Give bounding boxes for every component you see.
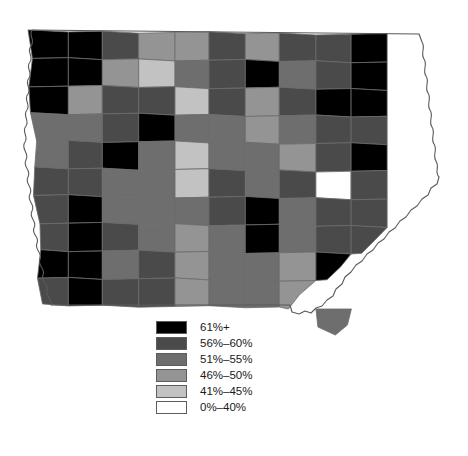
county-5-1 [35, 140, 69, 169]
county-4-3 [102, 113, 138, 142]
county-6-2 [68, 168, 102, 197]
legend-swatch [156, 337, 187, 350]
county-6-3 [102, 168, 138, 197]
county-2-10 [351, 62, 387, 90]
legend-row: 46%–50% [156, 367, 316, 383]
county-1-8 [279, 33, 316, 62]
county-3-9 [316, 89, 351, 118]
county-1-7 [245, 33, 279, 62]
county-10-5 [175, 278, 209, 307]
county-5-7 [245, 142, 279, 171]
county-1-4 [139, 32, 175, 61]
county-4-9 [316, 115, 351, 144]
county-8-10 [351, 226, 387, 255]
county-4-7 [245, 116, 279, 145]
county-2-6 [209, 59, 245, 88]
county-2-5 [175, 60, 209, 89]
county-1-9 [316, 34, 351, 63]
county-8-4 [139, 224, 175, 253]
county-7-1 [33, 195, 68, 224]
legend-label: 56%–60% [200, 337, 252, 350]
county-10-6 [209, 279, 245, 308]
county-9-2 [68, 251, 102, 280]
county-1-5 [175, 32, 209, 61]
county-7-6 [209, 196, 245, 225]
county-7-5 [175, 197, 209, 226]
county-10-4 [139, 278, 175, 307]
legend-row: 51%–55% [156, 351, 316, 367]
county-8-6 [209, 225, 245, 254]
county-3-6 [209, 88, 245, 117]
county-3-7 [245, 87, 279, 116]
county-layer [28, 30, 387, 335]
legend-swatch [156, 401, 187, 414]
legend-row: 41%–45% [156, 383, 316, 399]
county-6-5 [175, 169, 209, 198]
legend-label: 46%–50% [200, 369, 252, 382]
county-3-10 [351, 89, 387, 118]
legend-row: 61%+ [156, 319, 316, 335]
county-3-8 [279, 87, 316, 116]
choropleth-figure: 61%+56%–60%51%–55%46%–50%41%–45%0%–40% [0, 0, 468, 456]
legend: 61%+56%–60%51%–55%46%–50%41%–45%0%–40% [156, 319, 316, 415]
county-1-6 [209, 32, 245, 61]
county-6-1 [33, 167, 68, 196]
legend-label: 0%–40% [200, 401, 246, 414]
county-8-9 [316, 226, 351, 255]
county-1-2 [68, 31, 102, 60]
county-5-5 [175, 141, 209, 170]
county-6-10 [351, 171, 387, 200]
county-10-3 [102, 279, 138, 308]
county-1-3 [102, 31, 138, 60]
county-8-7 [245, 224, 279, 253]
county-10-7 [245, 279, 279, 308]
county-9-6 [209, 251, 245, 279]
county-3-2 [68, 85, 102, 114]
county-5-2 [68, 140, 102, 169]
county-8-3 [102, 222, 138, 251]
county-9-8 [279, 252, 316, 281]
county-2-9 [316, 61, 351, 90]
county-5-10 [351, 143, 387, 172]
county-7-8 [279, 198, 316, 227]
county-9-7 [245, 253, 279, 282]
legend-row: 0%–40% [156, 399, 316, 415]
county-5-8 [279, 144, 316, 173]
county-9-5 [175, 251, 209, 279]
county-4-2 [68, 114, 102, 143]
county-7-4 [139, 196, 175, 225]
county-3-3 [102, 85, 138, 114]
county-6-9 [316, 171, 351, 200]
county-4-6 [209, 114, 245, 143]
county-6-6 [209, 169, 245, 198]
county-7-3 [102, 196, 138, 225]
county-2-1 [29, 58, 69, 87]
county-3-5 [175, 87, 209, 116]
county-3-1 [29, 86, 69, 115]
county-8-2 [68, 222, 102, 251]
county-5-3 [102, 142, 138, 171]
county-7-7 [245, 196, 279, 225]
county-2-3 [102, 59, 138, 88]
legend-swatch [156, 353, 187, 366]
county-1-10 [351, 34, 387, 63]
legend-swatch [156, 321, 187, 334]
county-7-10 [351, 199, 387, 228]
legend-label: 61%+ [200, 321, 230, 334]
county-2-4 [139, 59, 175, 88]
county-10-2 [68, 277, 102, 306]
county-8-1 [40, 223, 68, 252]
county-6-8 [279, 170, 316, 199]
county-8-5 [175, 224, 209, 253]
legend-swatch [156, 369, 187, 382]
county-2-7 [245, 59, 279, 88]
county-9-1 [37, 250, 68, 279]
legend-swatch [156, 385, 187, 398]
county-3-4 [139, 87, 175, 116]
county-5-4 [139, 141, 175, 170]
county-4-5 [175, 114, 209, 143]
county-2-2 [68, 58, 102, 87]
county-1-1 [28, 30, 68, 59]
county-5-6 [209, 142, 245, 171]
legend-label: 41%–45% [200, 385, 252, 398]
